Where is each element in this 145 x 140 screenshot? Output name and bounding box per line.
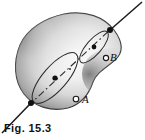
axis-exit-dot (107, 27, 113, 33)
axis-of-rotation-upper-segment (110, 2, 142, 30)
circle-a-center-dot (52, 75, 57, 80)
point-b-label: B (110, 51, 117, 63)
point-b-marker (103, 55, 108, 60)
body-edge-shadow (0, 0, 145, 140)
circle-b-center-dot (92, 45, 97, 50)
figure-container: A B Fig. 15.3 (0, 0, 145, 140)
body-upper-left-shadow (4, 12, 56, 60)
mid-axis-dot (69, 68, 71, 70)
body-shading (0, 0, 145, 140)
figure-caption: Fig. 15.3 (4, 122, 52, 134)
figure-illustration: A B (0, 0, 145, 140)
point-a-label: A (81, 93, 89, 105)
axis-entry-dot (28, 100, 34, 106)
rigid-body (0, 0, 145, 140)
point-a-marker (73, 96, 79, 102)
